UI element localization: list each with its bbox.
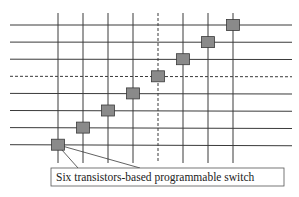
programmable-switch xyxy=(77,122,90,133)
programmable-switch xyxy=(227,20,240,31)
switch-matrix-diagram: Six transistors-based programmable switc… xyxy=(0,0,299,197)
programmable-switches xyxy=(52,20,240,151)
programmable-switch xyxy=(152,71,165,82)
callout: Six transistors-based programmable switc… xyxy=(51,168,284,186)
callout-label: Six transistors-based programmable switc… xyxy=(56,171,255,184)
callout-leader-line xyxy=(61,146,140,168)
vertical-wires xyxy=(58,13,233,163)
programmable-switch xyxy=(127,88,140,99)
programmable-switch xyxy=(52,139,65,150)
horizontal-wire-h6 xyxy=(10,111,292,112)
programmable-switch xyxy=(102,105,115,116)
horizontal-wires xyxy=(10,25,292,146)
programmable-switch xyxy=(177,54,190,65)
horizontal-wire-h5 xyxy=(10,93,292,94)
programmable-switch xyxy=(202,37,215,48)
horizontal-wire-h7 xyxy=(10,128,292,129)
callout-leader-lines xyxy=(59,146,140,168)
